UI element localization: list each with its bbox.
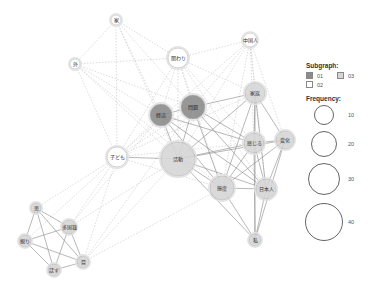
frequency-legend-item: 10 [306,102,370,128]
node-mondai: 問題 [180,94,206,120]
subgraph-label: 03 [348,73,354,79]
subgraph-label: 02 [317,82,323,88]
size-circle-icon [314,105,334,125]
node-label: 活動 [173,156,183,163]
node-nihonjin: 日本人 [255,178,277,200]
node-label: 中国人 [243,37,258,44]
legend: Subgraph: 01 03 02 Frequency: 10203040 [306,62,370,245]
node-label: 関わり [171,55,186,62]
node-label: 家 [114,17,119,23]
subgraph-label: 01 [317,73,323,79]
node-label: 話す [49,267,59,274]
frequency-label: 40 [348,219,354,225]
frequency-legend-item: 20 [306,128,370,159]
node-label: 子ども [110,154,125,160]
node-omou: 思 [30,202,42,214]
node-label: 目 [81,259,86,266]
edge [75,64,161,115]
edge [75,58,178,64]
node-takokuseki: 多国籍 [61,219,77,235]
edge [69,157,117,227]
edge [36,157,117,208]
frequency-label: 10 [348,112,354,118]
edge [83,157,117,262]
frequency-legend-title: Frequency: [306,95,370,102]
node-kodomo: 子ども [106,146,128,168]
edge [83,188,222,262]
edge [161,115,254,143]
node-label: 親り [20,238,30,245]
node-soto: 外 [69,58,81,70]
nodes: 家関わり中国人外経済問題家族子ども活動感じる変化態度日本人私思多国籍親り目話す [18,14,295,277]
node-taido: 態度 [209,175,235,201]
edge [83,159,178,262]
edge [75,64,117,157]
node-kakawari: 関わり [167,47,189,69]
node-label: 多国籍 [62,224,77,231]
edge [116,20,178,159]
node-hanasu: 話す [47,263,61,277]
frequency-label: 20 [348,141,354,147]
node-me: 目 [76,255,90,269]
size-circle-icon [308,163,340,195]
edge [116,20,161,115]
subgraph-legend-item-01: 01 [306,71,337,80]
size-circle-icon [305,203,343,241]
node-kanjiru: 感じる [243,132,265,154]
subgraph-legend-item-03: 03 [337,71,368,80]
node-label: 私 [253,237,258,244]
subgraph-legend-title: Subgraph: [306,62,370,69]
node-kazoku: 家族 [244,82,266,104]
edge [69,115,161,227]
node-henka: 変化 [275,130,295,150]
node-shitashii: 親り [18,234,32,248]
node-label: 経済 [156,112,166,119]
swatch-icon [306,81,313,88]
node-chugokujin: 中国人 [242,32,258,48]
edge [69,159,178,227]
size-circle-icon [311,131,337,157]
node-katsudo: 活動 [160,141,196,177]
swatch-icon [337,72,344,79]
node-keizai: 経済 [149,103,173,127]
node-label: 変化 [280,137,290,144]
node-label: 外 [73,61,78,68]
frequency-legend-item: 40 [306,199,370,245]
frequency-legend: 10203040 [306,102,370,245]
node-watashi: 私 [248,233,262,247]
frequency-legend-item: 30 [306,159,370,199]
swatch-icon [306,72,313,79]
edge [83,107,193,262]
subgraph-legend-item-02: 02 [306,80,337,89]
subgraph-legend: 01 03 02 [306,71,370,89]
frequency-label: 30 [348,176,354,182]
node-label: 思 [34,205,39,211]
edge [75,20,116,64]
edge [75,64,193,107]
node-label: 問題 [188,104,198,111]
node-label: 日本人 [259,186,274,193]
node-ie: 家 [110,14,122,26]
node-label: 感じる [247,140,262,146]
node-label: 家族 [250,90,260,97]
node-label: 態度 [217,185,227,192]
